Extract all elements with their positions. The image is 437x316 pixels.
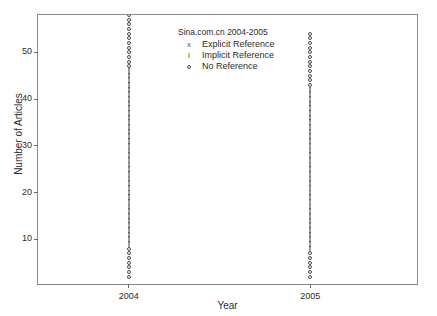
x-axis-label: Year (37, 300, 418, 312)
y-tick-mark (34, 99, 38, 100)
legend-marker-cross-icon: x (178, 39, 200, 50)
y-tick-label: 10 (22, 232, 32, 245)
legend-rows: xExplicit ReferenceIImplicit ReferenceNo… (178, 39, 328, 72)
y-tick-label: 50 (22, 45, 32, 58)
y-tick-mark (34, 239, 38, 240)
legend-item: No Reference (178, 61, 328, 72)
y-tick-mark (34, 145, 38, 146)
legend-item-label: Implicit Reference (200, 50, 274, 61)
legend-item: IImplicit Reference (178, 50, 328, 61)
legend-marker-circle-icon (178, 61, 200, 72)
y-tick-mark (34, 52, 38, 53)
chart-legend: Sina.com.cn 2004-2005 xExplicit Referenc… (178, 26, 328, 72)
chart-figure: 1020304050 20042005 Number of Articles Y… (0, 0, 437, 316)
legend-item: xExplicit Reference (178, 39, 328, 50)
legend-marker-ibar-icon: I (178, 50, 200, 61)
y-axis-label: Number of Articles (13, 74, 25, 194)
legend-item-label: Explicit Reference (200, 39, 275, 50)
legend-title: Sina.com.cn 2004-2005 (178, 26, 328, 38)
legend-item-label: No Reference (200, 61, 258, 72)
y-tick-mark (34, 192, 38, 193)
x-tick-mark (310, 284, 311, 288)
x-tick-mark (128, 284, 129, 288)
